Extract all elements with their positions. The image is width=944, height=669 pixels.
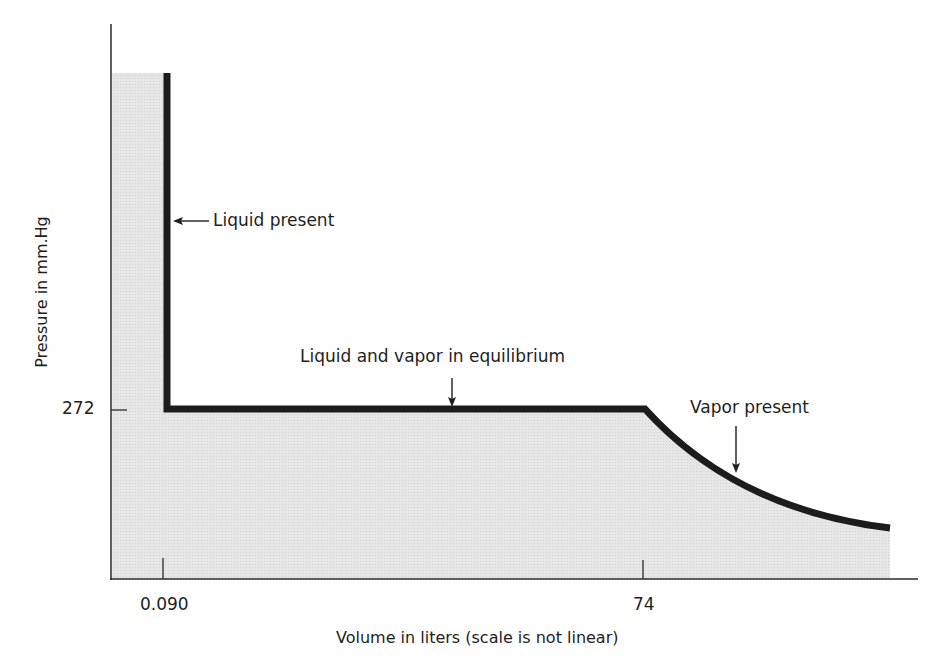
arrow-vapor-icon bbox=[732, 426, 740, 473]
y-axis-title: Pressure in mm.Hg bbox=[32, 216, 51, 368]
annotation-vapor-present: Vapor present bbox=[690, 397, 809, 417]
shaded-area bbox=[112, 73, 890, 579]
pv-isotherm-chart bbox=[0, 0, 944, 669]
arrow-equilibrium-icon bbox=[448, 378, 456, 407]
arrow-liquid-icon bbox=[173, 217, 209, 225]
x-tick-label-0090: 0.090 bbox=[140, 594, 189, 614]
annotation-liquid-vapor-equilibrium: Liquid and vapor in equilibrium bbox=[300, 346, 565, 366]
x-axis-title: Volume in liters (scale is not linear) bbox=[336, 628, 618, 647]
y-tick-label-272: 272 bbox=[62, 398, 94, 418]
x-tick-label-74: 74 bbox=[633, 594, 655, 614]
annotation-liquid-present: Liquid present bbox=[213, 210, 334, 230]
